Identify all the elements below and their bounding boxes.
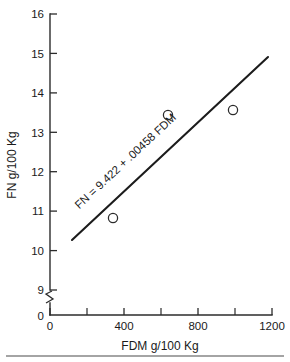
y-tick-label-14: 14 <box>31 87 44 99</box>
y-axis-title: FN g/100 Kg <box>5 131 19 198</box>
x-tick-label-0: 0 <box>47 320 53 332</box>
y-axis-origin-label: 0 <box>38 310 44 322</box>
x-tick-label-400: 400 <box>114 320 133 332</box>
y-tick-label-15: 15 <box>31 48 44 60</box>
x-tick-label-1200: 1200 <box>259 320 285 332</box>
scatter-chart: 16 15 14 13 12 11 10 9 0 0 400 800 1200 <box>0 0 290 362</box>
x-tick-label-800: 800 <box>188 320 207 332</box>
y-tick-label-16: 16 <box>31 8 44 20</box>
figure-container: 16 15 14 13 12 11 10 9 0 0 400 800 1200 <box>0 0 290 362</box>
y-tick-label-12: 12 <box>31 166 44 178</box>
y-tick-label-10: 10 <box>31 245 44 257</box>
x-axis-title: FDM g/100 Kg <box>121 339 198 353</box>
y-tick-label-13: 13 <box>31 127 44 139</box>
y-tick-label-11: 11 <box>32 205 44 217</box>
y-tick-label-9: 9 <box>38 284 44 296</box>
